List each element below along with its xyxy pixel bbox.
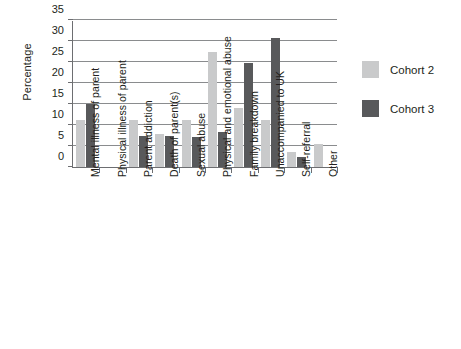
legend-item: Cohort 3 bbox=[362, 99, 434, 118]
legend-label: Cohort 2 bbox=[390, 64, 434, 76]
x-axis-tick-label: Other bbox=[327, 150, 339, 177]
legend-label: Cohort 3 bbox=[390, 103, 434, 115]
legend-swatch-icon bbox=[362, 61, 379, 78]
bar bbox=[76, 120, 85, 167]
x-axis-tick-label: Unaccompanied to UK bbox=[274, 71, 286, 177]
x-axis-tick-label: Family breakdown bbox=[248, 91, 260, 177]
bar-group bbox=[311, 21, 337, 167]
legend-item: Cohort 2 bbox=[362, 60, 434, 79]
bar bbox=[155, 134, 164, 167]
legend-swatch-icon bbox=[362, 100, 379, 117]
bar-chart: Percentage 05101520253035 Mental illness… bbox=[0, 0, 461, 349]
x-axis-tick-label: Mental illness of parent bbox=[89, 68, 101, 177]
x-axis-tick-label: Self-referral bbox=[300, 122, 312, 178]
chart-legend: Cohort 2Cohort 3 bbox=[362, 60, 434, 138]
bar bbox=[234, 108, 243, 167]
x-axis-tick-label: Sexual abuse bbox=[195, 113, 207, 177]
y-axis-tick-label: 35 bbox=[34, 3, 64, 15]
y-axis-tick-label: 15 bbox=[34, 87, 64, 99]
y-axis-tick-label: 10 bbox=[34, 108, 64, 120]
bar bbox=[314, 144, 323, 167]
y-axis-tick-label: 20 bbox=[34, 66, 64, 78]
bar bbox=[129, 120, 138, 167]
bar bbox=[182, 120, 191, 167]
x-axis-tick-label: Death of parent(s) bbox=[168, 91, 180, 177]
y-axis-tick-label: 5 bbox=[34, 129, 64, 141]
gridline bbox=[73, 19, 337, 20]
x-axis-tick-label: Physical illness of parent bbox=[116, 60, 128, 177]
bar bbox=[287, 152, 296, 167]
y-axis-tick bbox=[68, 19, 73, 20]
x-axis-tick-label: Physical and emotional abuse bbox=[221, 36, 233, 177]
y-axis-tick-label: 0 bbox=[34, 150, 64, 162]
y-axis-tick-label: 25 bbox=[34, 45, 64, 57]
x-axis-tick-label: Parent addiction bbox=[142, 100, 154, 177]
bar bbox=[261, 120, 270, 167]
y-axis-tick-label: 30 bbox=[34, 24, 64, 36]
y-axis-title: Percentage bbox=[21, 17, 33, 127]
bar bbox=[208, 52, 217, 167]
